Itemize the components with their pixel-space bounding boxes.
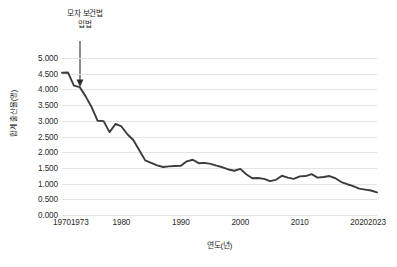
x-tick-label: 2020 bbox=[350, 218, 368, 227]
y-tick-label: 0.000 bbox=[2, 211, 58, 220]
y-tick-label: 4.500 bbox=[2, 69, 58, 78]
fertility-rate-line bbox=[62, 58, 377, 215]
annotation-line-1: 모자 보건법 bbox=[67, 9, 103, 18]
x-tick-label: 2023 bbox=[368, 218, 386, 227]
y-tick-label: 5.000 bbox=[2, 54, 58, 63]
fertility-rate-chart: 모자 보건법 입법 0.0000.5001.0001.5002.0002.500… bbox=[0, 0, 397, 267]
y-axis-title: 합계 출산율(명) bbox=[7, 84, 18, 144]
y-tick-label: 1.000 bbox=[2, 179, 58, 188]
y-tick-label: 0.500 bbox=[2, 195, 58, 204]
x-axis-title: 연도(년) bbox=[62, 239, 377, 250]
x-tick-label: 1980 bbox=[113, 218, 131, 227]
annotation-label: 모자 보건법 입법 bbox=[41, 8, 129, 30]
x-tick-label: 2000 bbox=[231, 218, 249, 227]
gridline bbox=[62, 215, 377, 216]
y-tick-label: 1.500 bbox=[2, 163, 58, 172]
x-axis-ticks: 19701973198019902000201020202023 bbox=[62, 218, 377, 232]
plot-area bbox=[62, 58, 377, 215]
x-tick-label: 2010 bbox=[291, 218, 309, 227]
x-tick-label: 1990 bbox=[172, 218, 190, 227]
annotation-line-2: 입법 bbox=[41, 19, 129, 30]
y-tick-label: 2.000 bbox=[2, 148, 58, 157]
x-tick-label: 1973 bbox=[71, 218, 89, 227]
x-tick-label: 1970 bbox=[53, 218, 71, 227]
